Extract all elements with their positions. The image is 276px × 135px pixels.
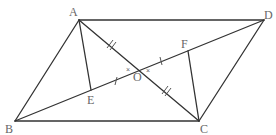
segment-cf bbox=[188, 51, 199, 121]
side-cd bbox=[199, 20, 264, 121]
label-f: F bbox=[181, 37, 188, 51]
geometry-diagram: × × A B C D O E F bbox=[0, 0, 276, 135]
label-b: B bbox=[5, 122, 13, 135]
side-ab bbox=[15, 20, 79, 121]
label-o: O bbox=[133, 70, 142, 84]
label-e: E bbox=[87, 93, 94, 107]
angle-mark-right: × bbox=[146, 67, 150, 74]
label-a: A bbox=[69, 5, 78, 19]
angle-mark-left: × bbox=[126, 66, 130, 73]
label-d: D bbox=[264, 8, 273, 22]
label-c: C bbox=[200, 122, 208, 135]
segment-ae bbox=[79, 20, 91, 90]
